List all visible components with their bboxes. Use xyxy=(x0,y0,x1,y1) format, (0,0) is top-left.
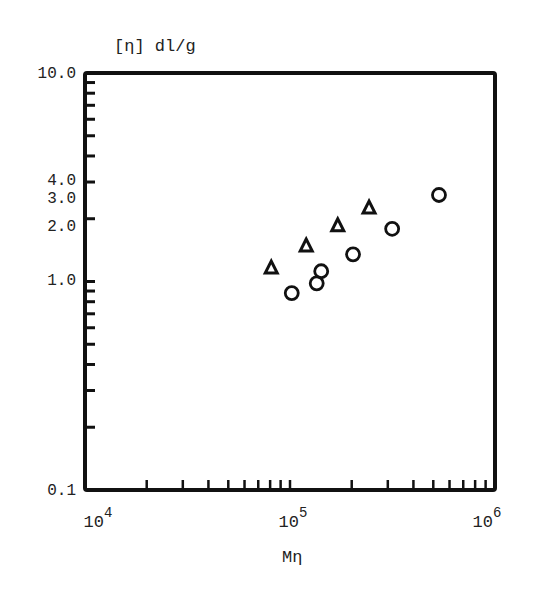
y-tick-label: 4.0 xyxy=(47,172,76,190)
x-axis-label: Mη xyxy=(282,548,302,567)
triangle-marker xyxy=(332,219,344,231)
x-tick-label: 105 xyxy=(279,505,308,532)
y-tick-label: 1.0 xyxy=(47,272,76,290)
y-tick-label: 10.0 xyxy=(38,65,76,83)
x-tick-label: 106 xyxy=(473,505,502,532)
circle-marker xyxy=(386,222,399,235)
y-tick-label: 2.0 xyxy=(47,218,76,236)
scatter-chart: 10.04.03.02.01.00.1 104105106 [η] dl/g M… xyxy=(0,0,533,589)
y-tick-label: 3.0 xyxy=(47,190,76,208)
triangle-marker xyxy=(300,239,312,251)
circle-marker xyxy=(285,287,298,300)
y-axis-label: [η] dl/g xyxy=(114,37,196,56)
circle-marker xyxy=(347,248,360,261)
circle-marker xyxy=(432,188,445,201)
x-axis-tick-labels: 104105106 xyxy=(84,505,502,532)
triangle-marker xyxy=(265,261,277,273)
circle-marker xyxy=(315,265,328,278)
y-tick-label: 0.1 xyxy=(47,482,76,500)
triangle-marker xyxy=(363,201,375,213)
x-tick-label: 104 xyxy=(84,505,113,532)
plot-frame xyxy=(85,73,495,490)
y-axis-tick-labels: 10.04.03.02.01.00.1 xyxy=(38,65,76,500)
data-points xyxy=(265,188,445,299)
